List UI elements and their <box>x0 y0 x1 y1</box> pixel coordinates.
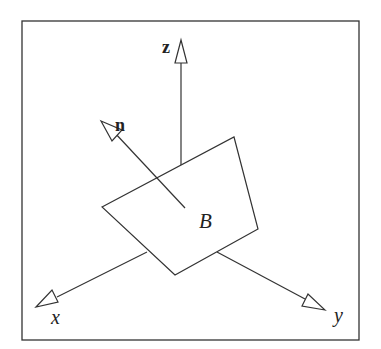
surface-label: B <box>199 209 212 233</box>
x-arrowhead-icon <box>36 290 58 307</box>
y-arrowhead-icon <box>302 294 325 310</box>
z-arrowhead-icon <box>175 40 187 63</box>
y-axis <box>217 252 325 310</box>
z-axis <box>175 40 187 165</box>
surface-patch <box>102 137 258 275</box>
x-axis-label: x <box>50 306 60 328</box>
diagram-canvas: z n B x y <box>0 0 381 349</box>
normal-label: n <box>115 115 125 135</box>
y-axis-label: y <box>332 304 343 327</box>
z-axis-label: z <box>162 37 170 57</box>
x-axis <box>36 252 147 307</box>
